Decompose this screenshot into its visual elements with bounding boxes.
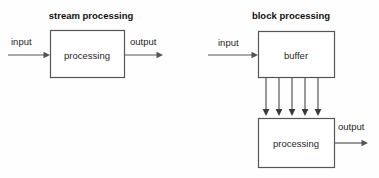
stream-output-arrowhead <box>157 52 164 58</box>
block-parallel-arrowhead-3 <box>289 109 296 116</box>
stream-input-arrowhead <box>44 52 51 58</box>
stream-processing-box-label: processing <box>64 50 110 61</box>
block-parallel-arrowhead-5 <box>315 109 322 116</box>
block-processing-box-label: processing <box>273 138 319 149</box>
stream-input-label: input <box>11 36 32 47</box>
block-parallel-arrowhead-2 <box>276 109 283 116</box>
diagram-vector-layer <box>0 0 379 178</box>
stream-panel-title: stream processing <box>49 10 133 21</box>
block-output-label: output <box>338 121 364 132</box>
block-panel-title: block processing <box>252 10 330 21</box>
diagram-canvas: stream processing input output processin… <box>0 0 379 178</box>
block-input-label: input <box>218 37 239 48</box>
block-output-arrowhead <box>362 140 369 146</box>
block-parallel-arrowhead-1 <box>263 109 270 116</box>
block-input-arrowhead <box>252 52 259 58</box>
block-parallel-arrowhead-4 <box>302 109 309 116</box>
block-parallel-arrows <box>263 78 322 116</box>
stream-output-label: output <box>130 36 156 47</box>
block-buffer-box-label: buffer <box>284 50 308 61</box>
